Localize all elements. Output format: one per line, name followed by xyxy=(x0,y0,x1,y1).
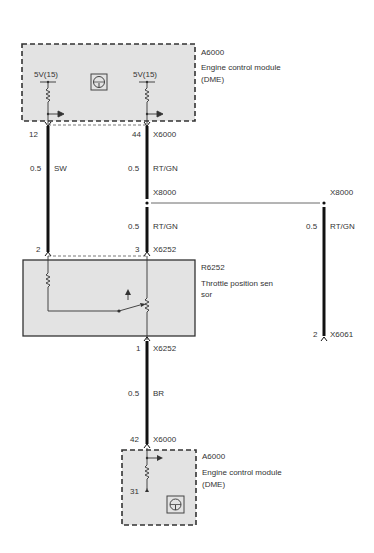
ground-connector-bottom: X6000 xyxy=(153,435,176,445)
mid-size-upper: 0.5 xyxy=(128,164,139,174)
sensor-name-1: Throttle position sen xyxy=(201,279,273,289)
mid-color-lower: RT/GN xyxy=(153,222,178,232)
mid-connector-bottom: X6252 xyxy=(153,245,176,255)
top-module-sub: (DME) xyxy=(201,75,224,85)
ground-connector-top: X6252 xyxy=(153,344,176,354)
throttle-sensor-box xyxy=(23,260,195,336)
supply-right-label: 5V(15) xyxy=(133,70,157,80)
top-module-name: Engine control module xyxy=(201,63,281,73)
right-color: RT/GN xyxy=(330,222,355,232)
bottom-ground-pin: 31 xyxy=(130,487,139,497)
top-module-id: A6000 xyxy=(201,48,224,58)
bottom-module-id: A6000 xyxy=(202,452,225,462)
left-color: SW xyxy=(54,164,67,174)
left-size: 0.5 xyxy=(30,164,41,174)
ground-size: 0.5 xyxy=(128,389,139,399)
ground-color: BR xyxy=(153,389,164,399)
supply-left-label: 5V(15) xyxy=(34,70,58,80)
right-junction: X8000 xyxy=(330,188,353,198)
right-connector-bottom: X6061 xyxy=(330,330,353,340)
ground-pin-top: 1 xyxy=(136,344,140,354)
mid-pin-bottom: 3 xyxy=(135,245,139,255)
ground-pin-bottom: 42 xyxy=(130,435,139,445)
sensor-id: R6252 xyxy=(201,263,225,273)
mid-color-upper: RT/GN xyxy=(153,164,178,174)
bottom-module-sub: (DME) xyxy=(202,480,225,490)
left-pin-bottom: 2 xyxy=(36,245,40,255)
bottom-module-name: Engine control module xyxy=(202,468,282,478)
mid-junction: X8000 xyxy=(153,188,176,198)
right-size: 0.5 xyxy=(306,222,317,232)
sensor-name-2: sor xyxy=(201,290,212,300)
right-pin-bottom: 2 xyxy=(313,330,317,340)
wiring-diagram xyxy=(0,0,374,553)
mid-connector-top: X6000 xyxy=(153,130,176,140)
left-pin-top: 12 xyxy=(29,130,38,140)
mid-pin-top: 44 xyxy=(132,130,141,140)
mid-size-lower: 0.5 xyxy=(128,222,139,232)
